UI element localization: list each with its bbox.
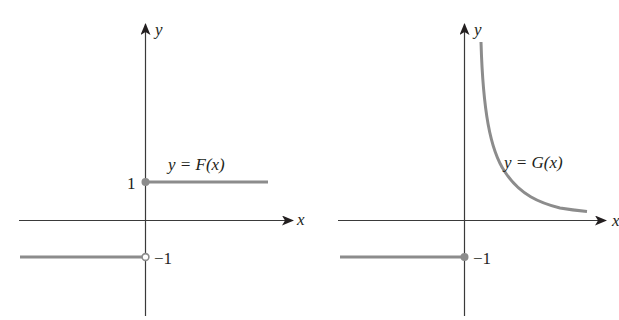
function-label-g: y = G(x) [502,153,563,172]
panel-f: y x 1 −1 y = F(x) [19,20,305,316]
x-axis-label-g: x [611,211,619,230]
function-label-f: y = F(x) [166,155,225,174]
tick-label-1-f: 1 [127,174,136,193]
function-graphs-figure: y x 1 −1 y = F(x) y x −1 y = G(x) [0,0,619,320]
f-open-dot [142,254,149,261]
tick-label-neg1-f: −1 [154,249,172,268]
panel-g: y x −1 y = G(x) [338,20,619,316]
y-axis-label-g: y [472,20,482,39]
tick-label-neg1-g: −1 [473,249,491,268]
f-filled-dot [142,178,150,186]
g-filled-dot [461,253,469,261]
x-axis-label-f: x [296,210,305,229]
y-axis-label-f: y [153,20,163,39]
g-right-curve [481,42,587,212]
